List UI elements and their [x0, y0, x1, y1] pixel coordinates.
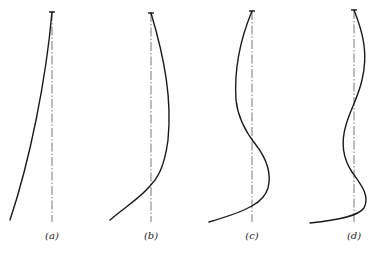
panel-label-b: (b): [136, 230, 166, 241]
deflection-curve-d: [310, 10, 366, 223]
panel-label-a: (a): [37, 230, 67, 241]
deflection-curve-a: [10, 12, 52, 220]
mode-shapes-diagram: [0, 0, 372, 255]
panel-b: [110, 13, 169, 222]
deflection-curve-c: [209, 11, 269, 222]
panel-c: [209, 11, 269, 222]
panel-d: [310, 10, 366, 223]
deflection-curve-b: [110, 13, 169, 220]
panel-label-d: (d): [339, 230, 369, 241]
panel-a: [10, 12, 55, 222]
panel-label-c: (c): [237, 230, 267, 241]
